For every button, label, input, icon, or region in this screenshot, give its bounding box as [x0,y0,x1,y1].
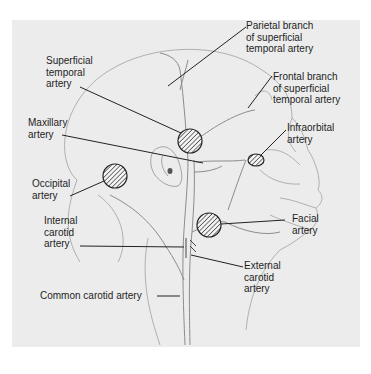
leader-internal-carotid [80,246,184,247]
leader-parietal [168,27,246,86]
leader-superficial-temporal [80,87,181,133]
leader-infraorbital [261,130,286,155]
leader-facial [221,220,285,224]
label-common-carotid-artery: Common carotid artery [40,290,142,302]
ear [151,147,182,187]
label-parietal-branch: Parietal branch of superficial temporal … [246,20,313,55]
label-internal-carotid-artery: Internal carotid artery [44,215,77,250]
label-frontal-branch: Frontal branch of superficial temporal a… [273,71,340,106]
leader-external-carotid [191,255,243,267]
label-external-carotid-artery: External carotid artery [244,260,281,295]
caption-cutoff [14,361,359,374]
pulse-point-superficial-temporal [178,129,202,153]
label-infraorbital-artery: Infraorbital artery [287,122,334,145]
leader-occipital [70,181,104,196]
label-occipital-artery: Occipital artery [32,178,70,201]
pulse-point-infraorbital [248,154,264,166]
pulse-point-facial [197,213,221,237]
pulse-point-occipital [103,164,127,188]
label-facial-artery: Facial artery [292,213,319,236]
leader-frontal [248,76,272,108]
label-superficial-temporal-artery: Superficial temporal artery [46,55,93,90]
label-maxillary-artery: Maxillary artery [28,117,67,140]
